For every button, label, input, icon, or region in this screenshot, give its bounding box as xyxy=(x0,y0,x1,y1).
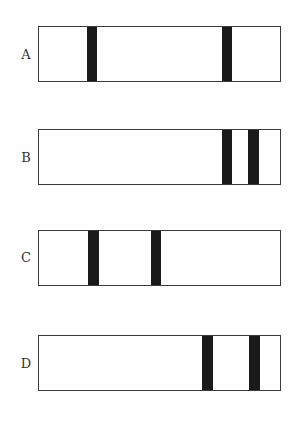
band xyxy=(248,130,259,184)
row-label: D xyxy=(19,356,33,372)
band xyxy=(222,27,232,81)
strip xyxy=(38,26,281,82)
strip xyxy=(38,335,281,391)
strip xyxy=(38,230,281,286)
band xyxy=(249,336,260,390)
band xyxy=(202,336,213,390)
row-label: C xyxy=(19,250,33,266)
strip xyxy=(38,129,281,185)
row-label: B xyxy=(19,150,33,166)
row-label: A xyxy=(19,47,33,63)
band xyxy=(222,130,232,184)
band xyxy=(87,27,97,81)
band xyxy=(151,231,161,285)
band xyxy=(88,231,99,285)
